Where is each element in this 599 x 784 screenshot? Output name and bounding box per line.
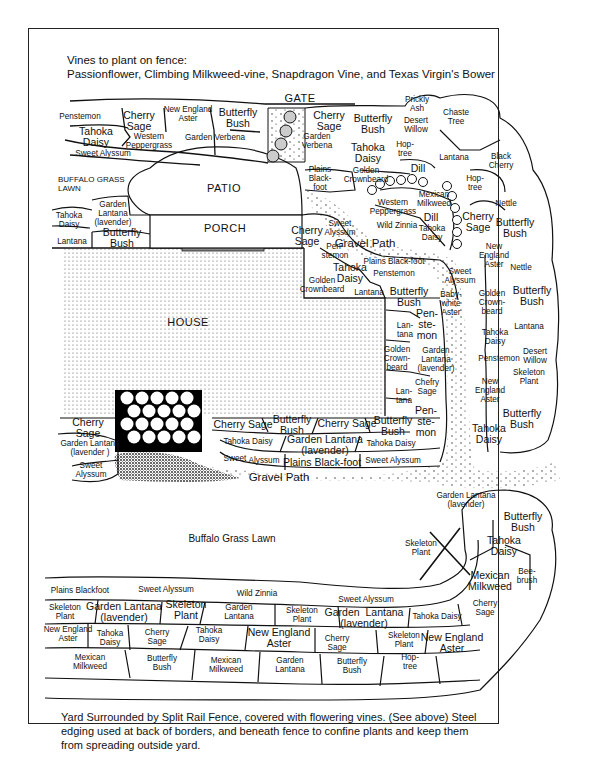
plant-label: Butterfly Bush — [219, 107, 258, 129]
plant-label: Lantana — [439, 153, 469, 162]
plant-label: Tahoka Daisy — [366, 439, 415, 448]
plant-label: Penstemon — [478, 354, 519, 363]
plant-label: Sweet Alyssum — [76, 461, 107, 479]
lawn-upper-label: BUFFALO GRASS LAWN — [58, 175, 125, 193]
plant-label: Hop- tree — [401, 653, 419, 671]
plant-label: Butterfly Bush — [390, 286, 429, 308]
plant-label: Garden Lantana (lavender) — [418, 346, 455, 373]
plant-label: Lan- tana — [397, 321, 413, 339]
plant-label: Mexican Milkweed — [417, 190, 451, 208]
plant-label: Dill — [424, 212, 439, 223]
plant-label: Sweet Alyssum — [75, 149, 131, 158]
plant-label: Cherry Sage — [145, 628, 170, 646]
plant-label: Sweet — [224, 454, 247, 463]
plant-label: Desert Willow — [523, 347, 547, 365]
plant-label: Garden Lantana — [275, 656, 305, 674]
plant-label: Garden Lantana — [224, 603, 254, 621]
porch-label: PORCH — [204, 224, 246, 233]
plant-label: Butterfly Bush — [337, 657, 367, 675]
plant-label: New England Aster — [479, 242, 509, 269]
plant-label: New England Aster — [164, 105, 213, 123]
plant-label: Tahoka Daisy — [472, 423, 506, 445]
plant-label: Skeleton Plant — [405, 539, 437, 557]
gate-label: GATE — [284, 94, 315, 103]
plant-label: Garden Lantana (lavender) — [86, 601, 162, 623]
plant-label: Plains Black- foot — [309, 165, 332, 192]
plant-label: Western Peppergrass — [370, 198, 416, 216]
plant-label: Tahoka Daisy — [487, 535, 521, 557]
plant-label: Pen- stemon — [322, 242, 349, 260]
lawn-center-label: Buffalo Grass Lawn — [188, 534, 275, 543]
patio-label: PATIO — [207, 184, 241, 193]
plant-label: Cherry Sage — [291, 225, 323, 247]
plant-label: Penstemon — [59, 112, 100, 121]
plant-label: Hop- tree — [396, 140, 414, 158]
plant-label: Lan- tana — [396, 387, 412, 405]
plant-label: Mexican Milkweed — [73, 653, 107, 671]
plant-label: Prickly Ash — [405, 95, 429, 113]
plant-label: Mexican Milkweed — [209, 656, 243, 674]
plant-label: Skeleton Plant — [513, 368, 545, 386]
plant-label: Garden Verbena — [185, 133, 245, 142]
plant-label: Butterfly Bush — [503, 408, 542, 430]
plant-label: Western Peppergrass — [126, 132, 172, 150]
plant-label: Cherry Sage — [123, 110, 155, 132]
plant-label: Wild Zinnia — [377, 221, 418, 230]
plant-label: Skeleton Plant — [286, 606, 318, 624]
plant-label: Tahoka Daisy — [56, 211, 82, 229]
plant-label: Golden Crown- beard — [479, 289, 505, 316]
plant-label: Pen- ste- mon — [416, 308, 438, 341]
plant-label: Penstemon — [373, 269, 414, 278]
plant-label: Sweet Alyssum — [365, 456, 421, 465]
plant-label: Plains Black-foot — [283, 457, 361, 468]
plant-label: Cherry Sage — [473, 599, 498, 617]
plant-label: Chaste Tree — [443, 108, 469, 126]
plant-label: Sweet Alyssum — [325, 219, 356, 237]
plant-label: Skeleton Plant — [388, 631, 420, 649]
plant-label: Dill — [411, 163, 426, 174]
plant-label: Golden Crown- beard — [384, 345, 410, 372]
plant-label: Mexican Milkweed — [468, 570, 512, 592]
plant-label: Wild Zinnia — [237, 589, 278, 598]
plant-label: Cherry Sage — [462, 211, 494, 233]
gate-gravel — [267, 108, 305, 162]
plant-label: Alyssum — [249, 456, 280, 465]
plant-label: Garden Lantana (lavender) — [287, 434, 363, 456]
plant-label: Cherry Sage — [214, 419, 273, 430]
plant-label: Butterfly Bush — [103, 227, 142, 249]
plant-label: Tahoka Daisy — [419, 224, 445, 242]
plant-label: Garden Verbena — [302, 132, 333, 150]
plant-label: Cherry Sage — [313, 110, 345, 132]
plant-label: Butterfly Bush — [147, 654, 177, 672]
plant-label: Hop- tree — [466, 174, 484, 192]
plant-label: New England Aster — [475, 377, 505, 404]
house-label: HOUSE — [167, 318, 209, 327]
plant-label: Desert Willow — [404, 116, 428, 134]
plant-label: Tahoka Daisy — [482, 328, 508, 346]
stepping-stones — [115, 390, 202, 452]
plant-label: Garden Lantana (lavender) — [95, 200, 132, 227]
plant-label: Lantana — [514, 322, 544, 331]
plant-label: Tahoka Daisy — [196, 626, 222, 644]
plant-label: Golden Crownbeard — [344, 166, 389, 184]
plant-label: Baby- white Aster — [440, 290, 461, 317]
plant-label: Tahoka Daisy — [223, 437, 272, 446]
plant-label: Bee- brush — [517, 567, 537, 585]
plant-label: Skeleton Plant — [166, 599, 207, 621]
plant-label: New England Aster — [44, 625, 93, 643]
plant-label: Butterfly Bush — [513, 285, 552, 307]
footer-note: Yard Surrounded by Split Rail Fence, cov… — [61, 710, 491, 752]
plant-label: Garden Lantana (lavender) — [436, 491, 495, 509]
plant-label: Skeleton Plant — [49, 603, 81, 621]
gravel-path-lower-label: Gravel Path — [249, 473, 310, 482]
plant-label: Tahoka Daisy — [79, 126, 113, 148]
plant-label: Tahoka Daisy — [97, 629, 123, 647]
plant-label: Tahoka Daisy — [351, 142, 385, 164]
plant-label: Pen- ste- mon — [415, 405, 437, 438]
plant-label: Cherry Sage — [318, 418, 377, 429]
plant-label: Butterfly Bush — [504, 511, 543, 533]
plant-label: Garden Lantana (lavender) — [325, 607, 404, 629]
plant-label: New England Aster — [248, 627, 310, 649]
plant-label: Garden Lantana (lavender ) — [60, 439, 119, 457]
plant-label: Nettle — [495, 199, 516, 208]
